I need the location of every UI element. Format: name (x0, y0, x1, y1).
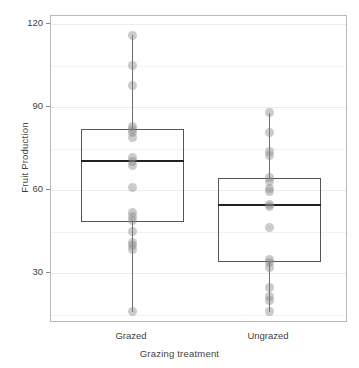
x-axis-title: Grazing treatment (0, 348, 359, 359)
data-point (265, 263, 274, 272)
data-point (128, 216, 137, 225)
data-point (265, 296, 274, 305)
data-point (265, 223, 274, 232)
x-tick-label: Ungrazed (223, 330, 313, 341)
gridline (51, 273, 346, 274)
gridline (51, 66, 346, 67)
gridline (51, 315, 346, 316)
data-point (265, 128, 274, 137)
gridline (51, 107, 346, 108)
plot-area (50, 15, 347, 322)
y-tick-label: 60 (17, 183, 43, 194)
data-point (128, 227, 137, 236)
data-point (128, 61, 137, 70)
data-point (265, 108, 274, 117)
data-point (265, 151, 274, 160)
data-point (128, 161, 137, 170)
y-tick-label: 30 (17, 266, 43, 277)
gridline (51, 24, 346, 25)
whisker-upper (269, 113, 270, 178)
x-tick-label: Grazed (86, 330, 176, 341)
boxplot-chart: Fruit Production Grazing treatment 30609… (0, 0, 359, 368)
y-tick-label: 90 (17, 100, 43, 111)
data-point (128, 31, 137, 40)
data-point (128, 245, 137, 254)
data-point (265, 283, 274, 292)
data-point (128, 183, 137, 192)
y-tick-label: 120 (17, 17, 43, 28)
data-point (128, 81, 137, 90)
